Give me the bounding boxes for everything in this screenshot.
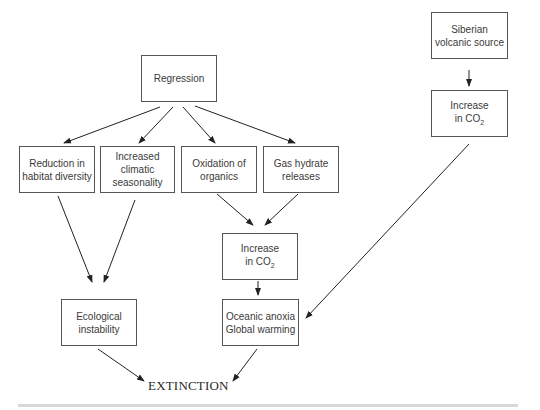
arrow-regression-oxidation [183,107,215,143]
node-increase-co2-right: Increase in CO2 [431,90,508,137]
node-label: Ecological [76,310,122,323]
arrow-anoxia-extinction [233,349,257,381]
node-habitat-diversity: Reduction in habitat diversity [19,146,95,193]
node-label: seasonality [112,176,162,189]
node-label: Increase [450,99,488,112]
arrow-oxidation-co2 [217,194,253,225]
node-label: climatic [112,163,162,176]
node-label: Increased [112,150,162,163]
node-label: releases [274,170,328,183]
arrow-regression-habitat [64,107,160,143]
arrow-regression-seasonality [139,107,173,143]
node-climatic-seasonality: Increased climatic seasonality [100,146,175,193]
node-label: volcanic source [435,36,504,49]
node-label: Regression [154,72,205,85]
node-label: Oxidation of [192,157,245,170]
node-label: Oceanic anoxia [226,310,295,323]
node-ecological-instability: Ecological instability [61,299,137,346]
node-label: Global warming [226,323,295,336]
node-label: Increase [241,242,279,255]
node-label: Reduction in [22,157,91,170]
node-label: instability [76,323,122,336]
arrow-seasonality-ecological [104,200,135,282]
node-oxidation-organics: Oxidation of organics [181,146,257,193]
arrow-ecological-extinction [98,349,144,381]
cropped-caption-line [18,404,518,407]
node-siberian-volcanic-source: Siberian volcanic source [431,12,508,59]
arrow-layer [0,0,540,410]
node-label: in CO2 [241,255,279,272]
diagram-canvas: Regression Siberian volcanic source Incr… [0,0,540,410]
arrow-gashydrate-co2 [265,194,298,225]
node-label: habitat diversity [22,170,91,183]
node-oceanic-anoxia: Oceanic anoxia Global warming [222,299,299,346]
node-increase-co2-center: Increase in CO2 [222,233,298,280]
extinction-label: EXTINCTION [148,378,229,394]
node-label: Gas hydrate [274,157,328,170]
node-label: in CO2 [450,112,488,129]
node-label: organics [192,170,245,183]
node-regression: Regression [141,55,217,102]
node-gas-hydrate-releases: Gas hydrate releases [263,146,339,193]
node-label: Siberian [435,23,504,36]
arrow-habitat-ecological [58,196,92,282]
